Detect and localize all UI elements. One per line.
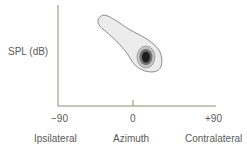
x-tick-plus90: +90 [205,113,222,124]
ipsilateral-label: Ipsilateral [34,133,77,144]
x-tick-0: 0 [130,113,136,124]
y-axis-label: SPL (dB) [8,46,48,57]
azimuth-label: Azimuth [113,133,149,144]
contralateral-label: Contralateral [185,133,242,144]
peak-core [142,52,150,63]
response-area-plot [0,0,247,155]
x-tick-minus90: −90 [51,113,68,124]
